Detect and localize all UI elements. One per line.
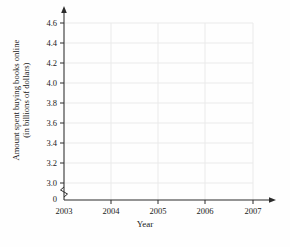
x-tick-label-2007: 2007 xyxy=(245,207,262,216)
x-axis-line xyxy=(64,197,276,203)
horizontal-gridlines xyxy=(64,23,253,183)
y-tick-label-3-8: 3.8 xyxy=(36,99,57,108)
y-tick-label-zero: 0 xyxy=(36,195,57,204)
vertical-gridlines xyxy=(64,23,253,200)
y-tick-label-3-4: 3.4 xyxy=(36,139,57,148)
x-tick-label-2004: 2004 xyxy=(103,207,120,216)
x-axis-ticks xyxy=(111,200,253,204)
y-tick-label-4-6: 4.6 xyxy=(36,19,57,28)
x-tick-label-2003: 2003 xyxy=(56,207,73,216)
y-tick-label-4-4: 4.4 xyxy=(36,39,57,48)
y-tick-label-3-2: 3.2 xyxy=(36,159,57,168)
x-tick-label-2006: 2006 xyxy=(197,207,214,216)
y-tick-label-3-0: 3.0 xyxy=(36,179,57,188)
y-axis-ticks xyxy=(60,23,64,183)
y-axis-title-line-1: Amount spent buying books online xyxy=(11,40,21,161)
chart-figure: 4.6 4.4 4.2 4.0 3.8 3.6 3.4 3.2 3.0 0 20… xyxy=(0,0,290,247)
y-tick-label-3-6: 3.6 xyxy=(36,119,57,128)
x-axis-title: Year xyxy=(0,219,290,229)
y-axis-title: Amount spent buying books online (in bil… xyxy=(3,0,39,200)
y-tick-label-4-0: 4.0 xyxy=(36,79,57,88)
x-tick-label-2005: 2005 xyxy=(150,207,167,216)
y-tick-label-4-2: 4.2 xyxy=(36,59,57,68)
y-axis-title-line-2: (in billions of dollars) xyxy=(21,40,31,161)
